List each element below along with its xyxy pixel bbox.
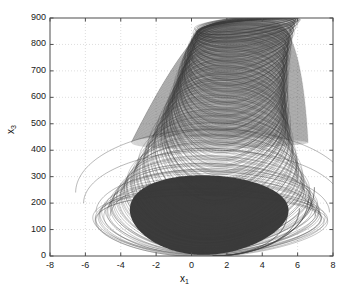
- y-tick-label: 100: [14, 225, 46, 234]
- x-tick-label: -2: [142, 261, 170, 270]
- y-tick-label: 800: [14, 39, 46, 48]
- x-tick-label: 6: [284, 261, 312, 270]
- x-tick-label: 2: [213, 261, 241, 270]
- x-tick-label: -8: [36, 261, 64, 270]
- y-tick-label: 400: [14, 145, 46, 154]
- y-axis-title-base: x: [5, 129, 16, 134]
- y-tick-label: 0: [14, 251, 46, 260]
- x-axis-title-subscript: 1: [185, 278, 189, 285]
- y-tick-label: 600: [14, 92, 46, 101]
- y-tick-label: 700: [14, 66, 46, 75]
- y-tick-label: 300: [14, 172, 46, 181]
- y-axis-title: x3: [6, 125, 16, 134]
- x-axis-title: x1: [180, 274, 189, 284]
- x-tick-label: -4: [107, 261, 135, 270]
- chart-figure: 0100200300400500600700800900 -8-6-4-2024…: [0, 0, 358, 294]
- y-tick-label: 500: [14, 119, 46, 128]
- x-tick-label: 0: [178, 261, 206, 270]
- x-tick-label: -6: [71, 261, 99, 270]
- attractor-plot: [0, 0, 358, 294]
- x-tick-label: 4: [248, 261, 276, 270]
- y-axis-title-subscript: 3: [10, 125, 17, 129]
- y-tick-label: 200: [14, 198, 46, 207]
- x-tick-label: 8: [319, 261, 347, 270]
- y-tick-label: 900: [14, 13, 46, 22]
